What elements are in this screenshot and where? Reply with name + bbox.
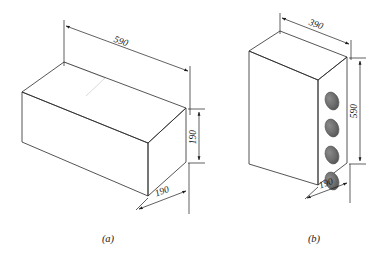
technical-drawing-svg: 590 190 190 (a) (0, 0, 384, 263)
figure-root: 590 190 190 (a) (0, 0, 384, 263)
block-b-height-label: 590 (349, 104, 359, 119)
block-a-caption: (a) (102, 233, 115, 245)
block-a-height-label: 190 (188, 130, 198, 145)
block-b-caption: (b) (308, 233, 321, 245)
